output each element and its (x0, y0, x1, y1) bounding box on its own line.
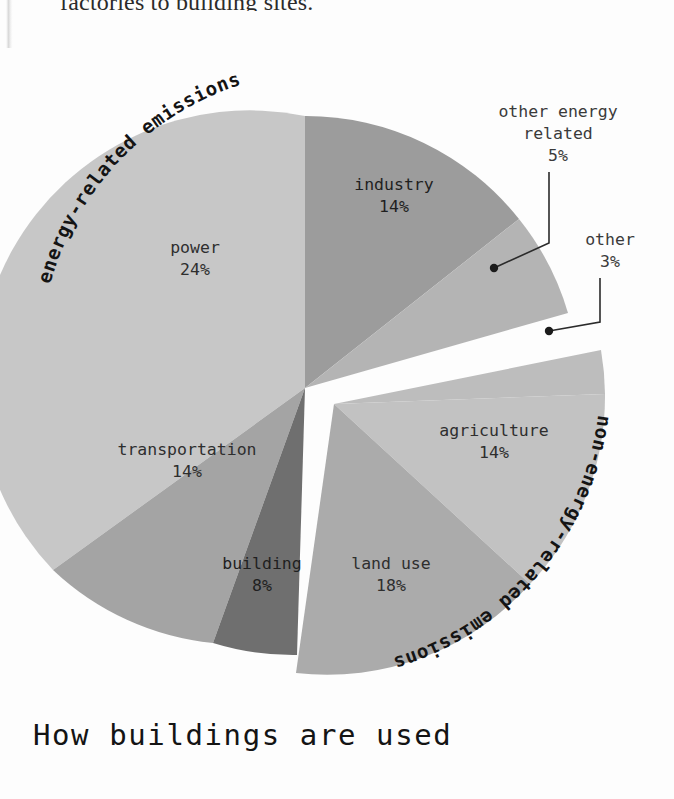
page-caption: How buildings are used (33, 718, 452, 752)
label-transportation-name: transportation (117, 440, 256, 459)
label-power-name: power (170, 238, 220, 257)
label-other-energy-value: 5% (548, 146, 568, 165)
label-building-value: 8% (252, 576, 272, 595)
label-industry-value: 14% (379, 197, 409, 216)
label-land-use-value: 18% (376, 576, 406, 595)
label-building-name: building (222, 554, 301, 573)
label-other-energy-line2: related (523, 124, 593, 143)
label-other-name: other (585, 230, 635, 249)
pie-chart: power 24% industry 14% transportation 14… (0, 0, 674, 700)
page-root: factories to building sites. (0, 0, 674, 799)
label-power-value: 24% (180, 260, 210, 279)
leader-dot-other-energy (490, 264, 498, 272)
label-land-use-name: land use (351, 554, 430, 573)
label-agriculture-name: agriculture (439, 421, 548, 440)
label-industry-name: industry (354, 175, 434, 194)
label-other-value: 3% (600, 252, 620, 271)
label-agriculture-value: 14% (479, 443, 509, 462)
label-transportation-value: 14% (172, 462, 202, 481)
label-other-energy-line1: other energy (498, 102, 617, 121)
leader-dot-other (545, 327, 553, 335)
pie-chart-svg: power 24% industry 14% transportation 14… (0, 0, 674, 700)
